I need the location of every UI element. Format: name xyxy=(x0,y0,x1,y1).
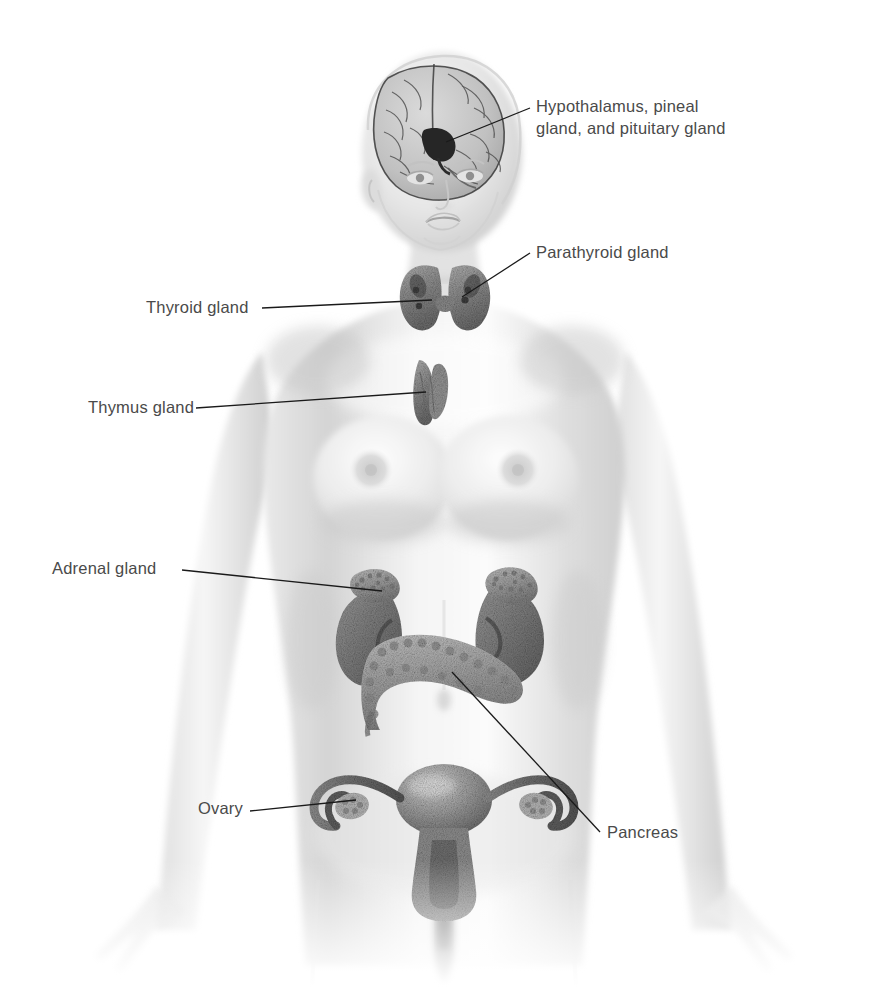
brain xyxy=(374,64,505,200)
right-breast-shadow xyxy=(446,500,570,544)
waist-shadow-left xyxy=(286,570,338,710)
label-thymus-gland: Thymus gland xyxy=(88,396,194,418)
left-breast-shadow xyxy=(321,500,445,544)
label-parathyroid-gland: Parathyroid gland xyxy=(536,241,669,263)
parathyroid-lower-left xyxy=(416,303,422,309)
thyroid-isthmus xyxy=(435,296,454,313)
label-thyroid-gland: Thyroid gland xyxy=(146,296,249,318)
left-pupil xyxy=(416,174,424,182)
right-nipple xyxy=(512,464,524,476)
uterus-highlight xyxy=(408,775,456,797)
body-figure xyxy=(0,52,888,987)
left-shoulder-shadow xyxy=(266,326,370,394)
label-ovary: Ovary xyxy=(198,797,243,819)
uterus xyxy=(396,764,492,836)
right-arm xyxy=(612,352,732,930)
label-pancreas: Pancreas xyxy=(607,821,678,843)
left-nipple xyxy=(365,464,377,476)
navel xyxy=(437,689,451,711)
parathyroid-upper-left xyxy=(413,287,419,293)
bottom-fade xyxy=(0,860,888,987)
waist-shadow-right xyxy=(552,570,604,710)
left-arm xyxy=(156,352,276,930)
right-pupil xyxy=(466,172,474,180)
anatomy-illustration xyxy=(0,0,888,987)
endocrine-diagram-page: Hypothalamus, pineal gland, and pituitar… xyxy=(0,0,888,987)
label-adrenal-gland: Adrenal gland xyxy=(52,557,156,579)
nose-shadow xyxy=(433,202,453,210)
right-shoulder-shadow xyxy=(520,326,624,394)
label-hypothalamus: Hypothalamus, pineal gland, and pituitar… xyxy=(536,95,726,139)
parathyroid-lower-right xyxy=(461,296,468,303)
